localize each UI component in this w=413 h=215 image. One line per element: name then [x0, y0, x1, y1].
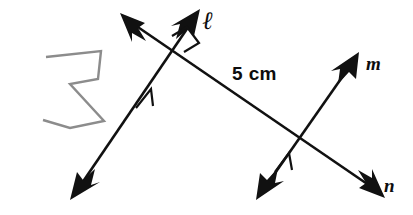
line-ell-arrowhead-lower: [70, 169, 100, 200]
line-n-shaft: [129, 21, 376, 190]
gray-polygon-shape: [43, 51, 104, 128]
label-line-m: m: [366, 54, 381, 73]
line-n-arrowhead-lower-right: [358, 169, 385, 198]
line-n-arrowhead-upper-left: [120, 13, 146, 42]
line-m-arrowhead-lower: [256, 168, 284, 200]
line-ell-shaft: [80, 20, 193, 186]
label-line-ell: ℓ: [202, 8, 212, 33]
geometry-diagram: ℓ m n 5 cm: [0, 0, 413, 215]
line-m-arrowhead-upper: [331, 52, 359, 84]
label-segment-measure: 5 cm: [232, 64, 277, 83]
line-n: [120, 13, 385, 198]
label-line-n: n: [384, 176, 395, 195]
